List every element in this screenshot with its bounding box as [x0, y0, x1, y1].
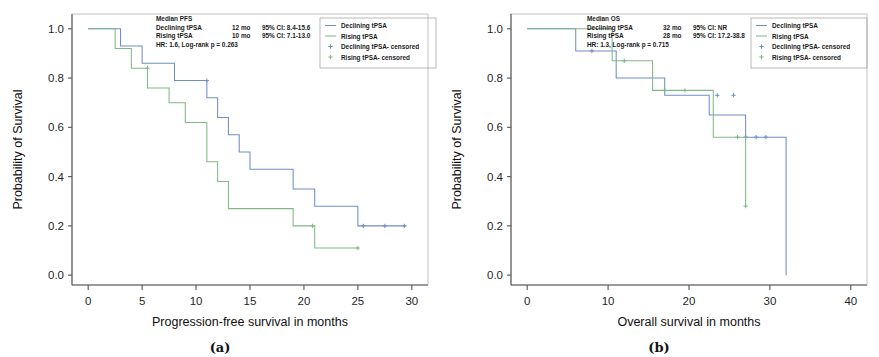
annotation-row-label: Rising tPSA: [587, 32, 624, 40]
annotation-row-ci: 95% CI: NR: [693, 24, 727, 31]
x-tick-label: 40: [844, 295, 857, 307]
annotation-row-median: 28 mo: [663, 32, 682, 39]
y-tick-label: 1.0: [48, 23, 64, 35]
panel-a-caption: (a): [0, 340, 440, 355]
x-tick-label: 25: [351, 295, 364, 307]
x-axis-title: Overall survival in months: [617, 315, 760, 329]
panel-b: 0.00.20.40.60.81.0010203040Overall survi…: [439, 0, 879, 357]
y-tick-label: 0.2: [48, 220, 64, 232]
x-tick-label: 20: [683, 295, 696, 307]
panel-b-caption: (b): [439, 340, 879, 355]
km-curve-declining-tpsa: [527, 29, 786, 275]
y-tick-label: 1.0: [487, 23, 503, 35]
y-tick-label: 0.8: [48, 72, 64, 84]
legend-label: Declining tPSA: [772, 22, 818, 30]
y-tick-label: 0.8: [487, 72, 503, 84]
annotation-row-ci: 95% CI: 8.4-15.6: [262, 24, 311, 31]
x-tick-label: 0: [524, 295, 530, 307]
y-tick-label: 0.0: [487, 269, 503, 281]
legend-label: Declining tPSA- censored: [341, 43, 419, 51]
km-curve-rising-tpsa: [527, 29, 745, 206]
x-tick-label: 15: [244, 295, 257, 307]
legend-label: Rising tPSA: [341, 33, 378, 41]
x-tick-label: 20: [298, 295, 311, 307]
annotation-stats: HR: 1.3, Log-rank p = 0.715: [587, 41, 669, 49]
x-tick-label: 10: [602, 295, 615, 307]
annotation-title: Median PFS: [156, 15, 193, 22]
legend-label: Rising tPSA- censored: [772, 54, 841, 62]
panel-a-plot: 0.00.20.40.60.81.0051015202530Progressio…: [0, 0, 440, 330]
annotation-row-label: Declining tPSA: [587, 24, 633, 32]
legend-label: Declining tPSA- censored: [772, 43, 850, 51]
y-tick-label: 0.6: [48, 121, 64, 133]
x-tick-label: 5: [139, 295, 145, 307]
annotation-row-ci: 95% CI: 17.2-38.8: [693, 32, 745, 39]
annotation-row-label: Declining tPSA: [156, 24, 202, 32]
x-tick-label: 0: [85, 295, 91, 307]
km-curve-rising-tpsa: [88, 29, 358, 248]
annotation-row-label: Rising tPSA: [156, 32, 193, 40]
y-tick-label: 0.4: [48, 171, 65, 183]
x-tick-label: 30: [764, 295, 777, 307]
panel-a: 0.00.20.40.60.81.0051015202530Progressio…: [0, 0, 440, 357]
annotation-row-median: 32 mo: [663, 24, 682, 31]
y-tick-label: 0.6: [487, 121, 503, 133]
annotation-row-median: 10 mo: [232, 32, 251, 39]
y-tick-label: 0.4: [487, 171, 504, 183]
legend-label: Rising tPSA- censored: [341, 54, 410, 62]
y-tick-label: 0.0: [48, 269, 64, 281]
x-axis-title: Progression-free survival in months: [152, 315, 348, 329]
y-tick-label: 0.2: [487, 220, 503, 232]
annotation-row-ci: 95% CI: 7.1-13.0: [262, 32, 311, 39]
legend-label: Rising tPSA: [772, 33, 809, 41]
annotation-title: Median OS: [587, 15, 621, 22]
annotation-stats: HR: 1.6, Log-rank p = 0.263: [156, 41, 238, 49]
annotation-row-median: 12 mo: [232, 24, 251, 31]
legend-label: Declining tPSA: [341, 22, 387, 30]
y-axis-title: Probability of Survival: [11, 89, 25, 209]
y-axis-title: Probability of Survival: [450, 89, 464, 209]
km-survival-figure: 0.00.20.40.60.81.0051015202530Progressio…: [0, 0, 879, 357]
x-tick-label: 10: [190, 295, 203, 307]
panel-b-plot: 0.00.20.40.60.81.0010203040Overall survi…: [439, 0, 879, 330]
x-tick-label: 30: [405, 295, 418, 307]
